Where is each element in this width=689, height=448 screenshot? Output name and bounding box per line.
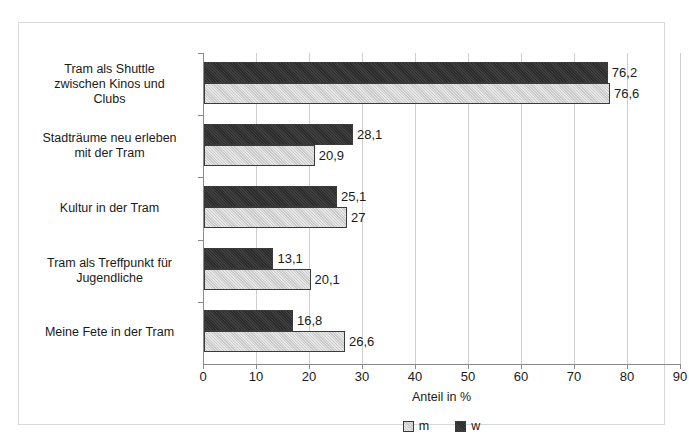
bar-value-label: 27 [347, 207, 365, 228]
x-axis-tick-label: 90 [660, 369, 689, 384]
category-label-line: zwischen Kinos und [22, 77, 197, 92]
category-label-line: mit der Tram [22, 146, 197, 161]
bar-value-label: 26,6 [345, 331, 374, 352]
x-axis-tick-label: 30 [342, 369, 382, 384]
x-axis-tick-label: 0 [183, 369, 223, 384]
bar-m[interactable] [204, 269, 311, 290]
bar-w[interactable] [204, 310, 293, 331]
category-axis-labels: Tram als Shuttlezwischen Kinos undClubsS… [19, 53, 197, 364]
bar-m[interactable] [204, 331, 345, 352]
category-label-line: Stadträume neu erleben [22, 131, 197, 146]
x-axis-tick-labels: 0102030405060708090 [203, 369, 680, 387]
bar-value-label: 28,1 [353, 124, 382, 145]
bar-value-label: 25,1 [337, 186, 366, 207]
y-axis-tick [198, 302, 203, 303]
bar-value-label: 13,1 [273, 248, 302, 269]
legend-item-m[interactable]: m [403, 419, 429, 433]
bar-w[interactable] [204, 124, 353, 145]
bar-value-label: 76,2 [608, 62, 637, 83]
category-label-line: Jugendliche [22, 271, 197, 286]
legend-label: m [419, 419, 429, 433]
category-label-line: Meine Fete in der Tram [22, 325, 197, 340]
bar-value-label: 20,9 [315, 145, 344, 166]
category-label-line: Clubs [22, 92, 197, 107]
category-label-line: Tram als Treffpunkt für [22, 256, 197, 271]
chart-legend: mw [203, 419, 680, 433]
bar-m[interactable] [204, 145, 315, 166]
y-axis-tick [198, 53, 203, 54]
category-label: Kultur in der Tram [22, 201, 197, 216]
x-axis-tick-label: 20 [289, 369, 329, 384]
bar-m[interactable] [204, 83, 610, 104]
x-axis-line [203, 364, 680, 365]
x-axis-tick-label: 50 [448, 369, 488, 384]
legend-swatch-icon [455, 421, 466, 432]
bar-m[interactable] [204, 207, 347, 228]
chart-frame: Tram als Shuttlezwischen Kinos undClubsS… [18, 22, 665, 425]
bar-w[interactable] [204, 186, 337, 207]
bar-w[interactable] [204, 62, 608, 83]
category-label: Meine Fete in der Tram [22, 325, 197, 340]
x-axis-tick-label: 70 [554, 369, 594, 384]
x-axis-tick-label: 40 [395, 369, 435, 384]
category-label: Tram als Shuttlezwischen Kinos undClubs [22, 62, 197, 107]
x-axis-tick-label: 80 [607, 369, 647, 384]
x-axis-tick-label: 10 [236, 369, 276, 384]
x-axis-title: Anteil in % [203, 390, 680, 404]
category-label: Tram als Treffpunkt fürJugendliche [22, 256, 197, 286]
bar-value-label: 76,6 [610, 83, 639, 104]
bar-value-label: 20,1 [311, 269, 340, 290]
plot-area: 76,276,628,120,925,12713,120,116,826,6 [203, 53, 680, 364]
legend-item-w[interactable]: w [455, 419, 480, 433]
bar-value-label: 16,8 [293, 310, 322, 331]
legend-swatch-icon [403, 421, 414, 432]
bar-w[interactable] [204, 248, 273, 269]
x-axis-tick-label: 60 [501, 369, 541, 384]
y-axis-tick [198, 240, 203, 241]
category-label-line: Tram als Shuttle [22, 62, 197, 77]
gridline [680, 53, 681, 364]
y-axis-tick [198, 115, 203, 116]
category-label: Stadträume neu erlebenmit der Tram [22, 131, 197, 161]
y-axis-tick [198, 177, 203, 178]
category-label-line: Kultur in der Tram [22, 201, 197, 216]
legend-label: w [471, 419, 480, 433]
